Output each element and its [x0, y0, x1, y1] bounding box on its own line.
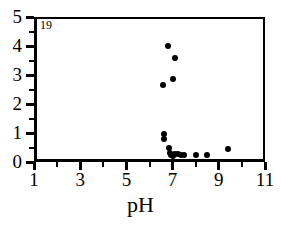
x-tick-minor — [102, 162, 104, 167]
y-tick-minor — [29, 147, 34, 149]
y-tick-major — [26, 16, 34, 19]
data-point — [225, 146, 231, 152]
x-axis-title: pH — [0, 193, 281, 217]
y-tick-major — [26, 45, 34, 48]
data-point — [181, 152, 187, 158]
y-tick-label: 2 — [0, 94, 22, 113]
y-tick-minor — [29, 31, 34, 33]
y-tick-label: 1 — [0, 123, 22, 142]
y-tick-minor — [29, 118, 34, 120]
y-tick-major — [26, 132, 34, 135]
y-tick-label: 4 — [0, 36, 22, 55]
x-tick-label: 11 — [250, 170, 280, 189]
y-tick-minor — [29, 89, 34, 91]
x-tick-label: 7 — [158, 170, 188, 189]
x-tick-label: 5 — [111, 170, 141, 189]
plot-area — [34, 17, 265, 162]
y-tick-major — [26, 74, 34, 77]
x-tick-label: 1 — [19, 170, 49, 189]
x-tick-minor — [56, 162, 58, 167]
x-tick-minor — [241, 162, 243, 167]
y-tick-label: 0 — [0, 152, 22, 171]
data-point — [193, 152, 199, 158]
data-point — [165, 43, 171, 49]
data-point — [172, 55, 178, 61]
data-point — [161, 136, 167, 142]
scatter-chart-figure: 19 012345 1357911 pH — [0, 0, 281, 228]
x-tick-label: 3 — [65, 170, 95, 189]
x-tick-minor — [195, 162, 197, 167]
y-tick-major — [26, 103, 34, 106]
y-tick-label: 3 — [0, 65, 22, 84]
data-point — [170, 76, 176, 82]
x-tick-minor — [149, 162, 151, 167]
x-tick-label: 9 — [204, 170, 234, 189]
panel-label: 19 — [40, 19, 52, 31]
y-tick-minor — [29, 60, 34, 62]
y-tick-label: 5 — [0, 7, 22, 26]
